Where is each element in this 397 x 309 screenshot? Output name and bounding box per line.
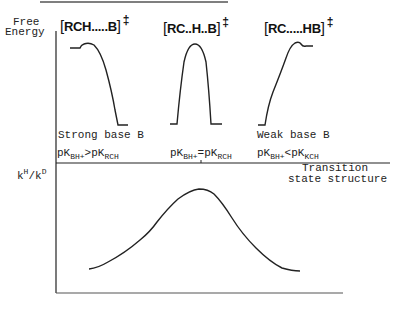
energy-profile-strong-base: [70, 43, 128, 125]
pk-symbol: pK: [291, 147, 304, 159]
pk-subscript: BH+: [70, 152, 84, 161]
pk-symbol: pK: [204, 147, 217, 159]
pk-symbol: pK: [57, 147, 70, 159]
k-symbol: k: [17, 170, 24, 182]
ts-label-symmetric: [RC..H..B]‡: [163, 21, 229, 36]
pk-condition-greater: pKBH+>pKRCH: [57, 148, 119, 159]
weak-base-label: Weak base B: [257, 130, 330, 141]
bracket-close: ]: [117, 17, 121, 34]
double-dagger-icon: ‡: [123, 13, 129, 27]
bracket-close: ]: [216, 19, 220, 36]
isotope-effect-axis-label: kH/kD: [17, 171, 46, 182]
pk-symbol: pK: [257, 147, 270, 159]
ts-formula: RC.....HB: [268, 21, 321, 36]
pk-condition-equal: pKBH+=pKRCH: [170, 148, 232, 159]
ts-label-early: [RCH.....B]‡: [60, 19, 129, 34]
bracket-close: ]: [321, 19, 325, 36]
ts-formula: RC..H..B: [167, 21, 217, 36]
pk-symbol: pK: [91, 147, 104, 159]
free-energy-label-line2: Energy: [5, 27, 45, 38]
ts-label-late: [RC.....HB]‡: [264, 21, 333, 36]
pk-subscript: RCH: [217, 152, 231, 161]
pk-symbol: pK: [170, 147, 183, 159]
d-superscript: D: [42, 167, 47, 176]
double-dagger-icon: ‡: [327, 15, 333, 29]
ts-formula: RCH.....B: [64, 19, 117, 34]
pk-subscript: BH+: [270, 152, 284, 161]
energy-profile-symmetric: [170, 44, 222, 124]
pk-subscript: KCH: [304, 152, 318, 161]
strong-base-label: Strong base B: [58, 130, 144, 141]
pk-subscript: RCH: [104, 152, 118, 161]
pk-subscript: BH+: [183, 152, 197, 161]
diagram: Free Energy [RCH.....B]‡ [RC..H..B]‡ [RC…: [0, 0, 397, 309]
x-axis-label-line2: state structure: [288, 174, 387, 185]
energy-profile-weak-base: [258, 42, 313, 125]
k-symbol: k: [35, 170, 42, 182]
isotope-effect-curve: [89, 189, 300, 271]
pk-condition-less: pKBH+<pKKCH: [257, 148, 319, 159]
double-dagger-icon: ‡: [222, 15, 228, 29]
